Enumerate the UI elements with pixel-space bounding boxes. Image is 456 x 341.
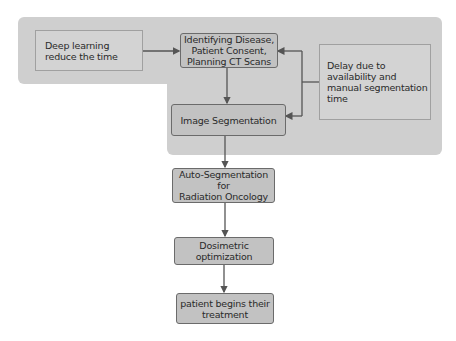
- node-patient-treatment-label: patient begins their treatment: [180, 298, 270, 320]
- node-dosimetric-optimization: Dosimetric optimization: [174, 237, 274, 265]
- node-dosimetric-optimization-label: Dosimetric optimization: [196, 240, 253, 262]
- node-image-segmentation-label: Image Segmentation: [181, 115, 277, 126]
- note-deep-learning: Deep learning reduce the time: [35, 30, 143, 71]
- node-patient-treatment: patient begins their treatment: [176, 293, 274, 324]
- node-identifying-disease: Identifying Disease, Patient Consent, Pl…: [180, 33, 278, 68]
- note-delay: Delay due to availability and manual seg…: [319, 44, 431, 120]
- node-image-segmentation: Image Segmentation: [171, 104, 286, 136]
- note-delay-label: Delay due to availability and manual seg…: [327, 60, 428, 104]
- node-identifying-disease-label: Identifying Disease, Patient Consent, Pl…: [184, 34, 274, 67]
- note-deep-learning-label: Deep learning reduce the time: [45, 40, 118, 62]
- node-auto-segmentation: Auto-Segmentation for Radiation Oncology: [172, 168, 275, 203]
- node-auto-segmentation-label: Auto-Segmentation for Radiation Oncology: [173, 169, 274, 202]
